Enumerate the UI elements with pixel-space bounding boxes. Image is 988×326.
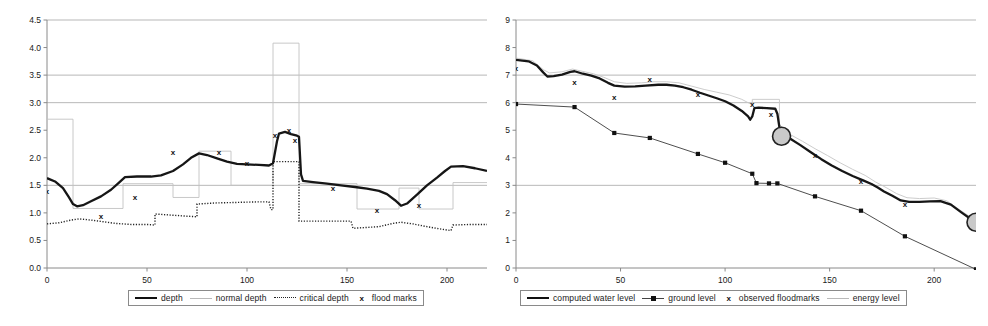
y-tick-label: 2.0	[29, 153, 41, 163]
ground-level-marker	[750, 172, 754, 176]
x-tick-label: 50	[142, 275, 152, 285]
y-tick-label: 4.0	[29, 43, 41, 53]
legend-item-normal-depth: normal depth	[190, 293, 267, 303]
legend-label: computed water level	[553, 293, 635, 303]
flood-mark-x: x	[417, 201, 422, 210]
y-tick-label: 7	[505, 70, 510, 80]
series-energy-level	[516, 58, 976, 221]
legend-item-energy-level: energy level	[827, 293, 900, 303]
series-critical-depth	[47, 162, 487, 231]
y-tick-label: 0.0	[29, 263, 41, 273]
flood-mark-x: x	[273, 131, 278, 140]
y-tick-label: 3.0	[29, 98, 41, 108]
flood-mark-x: x	[903, 200, 908, 209]
y-tick-label: 0.5	[29, 235, 41, 245]
highlight-circle-marker	[773, 127, 791, 145]
legend-swatch-solid-thin-icon	[190, 294, 212, 302]
highlight-circle-marker	[967, 213, 985, 231]
flood-mark-x: x	[245, 159, 250, 168]
legend-swatch-dotted-icon	[274, 294, 296, 302]
legend-item-depth: depth	[135, 293, 183, 303]
legend-label: normal depth	[216, 293, 267, 303]
x-tick-label: 0	[45, 275, 50, 285]
flood-mark-x: x	[769, 110, 774, 119]
flood-mark-x: x	[171, 148, 176, 157]
flood-mark-x: x	[514, 64, 519, 73]
legend-label: critical depth	[300, 293, 349, 303]
legend-label: energy level	[853, 293, 900, 303]
flood-mark-x: x	[572, 78, 577, 87]
ground-level-marker	[903, 234, 907, 238]
x-tick-label: 150	[340, 275, 354, 285]
ground-level-marker	[813, 194, 817, 198]
x-tick-label: 200	[440, 275, 454, 285]
flood-mark-x: x	[293, 136, 298, 145]
series-depth	[47, 132, 487, 206]
x-tick-label: 50	[616, 275, 626, 285]
flood-mark-x: x	[648, 75, 653, 84]
flood-mark-x: x	[217, 148, 222, 157]
legend-swatch-solid-thick-icon	[527, 294, 549, 302]
y-tick-label: 8	[505, 43, 510, 53]
y-tick-label: 0	[505, 263, 510, 273]
y-tick-label: 2	[505, 208, 510, 218]
legend-swatch-x-icon: x	[723, 294, 735, 303]
ground-level-marker	[696, 152, 700, 156]
series-normal-depth	[47, 43, 487, 209]
flood-mark-x: x	[133, 193, 138, 202]
y-tick-label: 9	[505, 15, 510, 25]
chart-panel-left: 0.00.51.01.52.02.53.03.54.04.50501001502…	[0, 0, 494, 326]
flood-mark-x: x	[287, 126, 292, 135]
y-tick-label: 4.5	[29, 15, 41, 25]
y-tick-label: 3	[505, 180, 510, 190]
ground-level-marker	[612, 131, 616, 135]
flood-mark-x: x	[375, 206, 380, 215]
flood-mark-x: x	[99, 212, 104, 221]
flood-mark-x: x	[331, 184, 336, 193]
flood-mark-x: x	[612, 93, 617, 102]
ground-level-marker	[648, 136, 652, 140]
legend-label: ground level	[668, 293, 716, 303]
ground-level-marker	[775, 181, 779, 185]
y-tick-label: 4	[505, 153, 510, 163]
legend-item-ground-level: ground level	[642, 293, 716, 303]
x-tick-label: 100	[240, 275, 254, 285]
legend-swatch-x-icon: x	[356, 294, 368, 303]
chart-panel-right: 0123456789050100150200xxxxxxxxxx compute…	[494, 0, 988, 326]
ground-level-marker	[572, 105, 576, 109]
y-tick-label: 2.5	[29, 125, 41, 135]
ground-level-marker	[974, 267, 978, 271]
legend-swatch-solid-thick-icon	[135, 294, 157, 302]
right-chart-legend: computed water levelground levelxobserve…	[520, 290, 907, 306]
flood-mark-x: x	[813, 151, 818, 160]
left-chart-canvas: 0.00.51.01.52.02.53.03.54.04.50501001502…	[0, 0, 494, 326]
flood-mark-x: x	[750, 100, 755, 109]
ground-level-marker	[859, 209, 863, 213]
x-tick-label: 100	[718, 275, 732, 285]
legend-swatch-solid-thin-icon	[827, 294, 849, 302]
right-chart-canvas: 0123456789050100150200xxxxxxxxxx	[494, 0, 988, 326]
y-tick-label: 6	[505, 98, 510, 108]
legend-item-critical-depth: critical depth	[274, 293, 349, 303]
legend-item-computed-water-level: computed water level	[527, 293, 635, 303]
ground-level-marker	[754, 181, 758, 185]
y-tick-label: 1	[505, 235, 510, 245]
legend-item-observed-floodmarks: xobserved floodmarks	[723, 293, 820, 303]
flood-mark-x: x	[859, 177, 864, 186]
figure-container: 0.00.51.01.52.02.53.03.54.04.50501001502…	[0, 0, 988, 326]
x-tick-label: 200	[927, 275, 941, 285]
ground-level-marker	[723, 161, 727, 165]
legend-item-flood-marks: xflood marks	[356, 293, 417, 303]
left-chart-legend: depthnormal depthcritical depthxflood ma…	[128, 290, 424, 306]
flood-mark-x: x	[696, 90, 701, 99]
series-ground-level	[516, 104, 976, 269]
legend-label: flood marks	[372, 293, 417, 303]
y-tick-label: 5	[505, 125, 510, 135]
legend-label: depth	[161, 293, 183, 303]
x-tick-label: 0	[514, 275, 519, 285]
y-tick-label: 3.5	[29, 70, 41, 80]
ground-level-marker	[767, 181, 771, 185]
flood-mark-x: x	[45, 187, 50, 196]
x-tick-label: 150	[823, 275, 837, 285]
legend-label: observed floodmarks	[739, 293, 820, 303]
